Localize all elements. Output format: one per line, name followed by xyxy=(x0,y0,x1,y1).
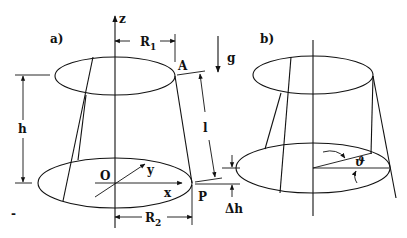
origin-label: O xyxy=(100,169,110,183)
gravity-label: g xyxy=(227,51,236,65)
l-label: l xyxy=(203,121,208,135)
b-string-2 xyxy=(265,93,281,149)
x-axis-label: x xyxy=(164,186,172,200)
b-string-1 xyxy=(280,57,291,193)
l-arrow-up xyxy=(200,74,205,112)
generator-line-2 xyxy=(78,95,86,160)
r2-label: R2 xyxy=(145,211,161,228)
angle-arrow-bottom xyxy=(355,171,357,183)
stray-mark: - xyxy=(11,207,16,221)
dh-label: Δh xyxy=(225,202,243,216)
point-a-label: A xyxy=(177,59,188,73)
generator-line-1 xyxy=(63,57,93,201)
z-axis-label: z xyxy=(119,12,126,26)
b-string-3 xyxy=(373,76,396,198)
angle-arrow-top xyxy=(323,151,345,158)
panel-b-label: b) xyxy=(260,32,274,46)
l-bottom-extension xyxy=(195,178,222,182)
panel-a-label: a) xyxy=(50,32,63,46)
angle-label: ϑ xyxy=(355,155,365,169)
r1-label: R1 xyxy=(140,35,156,52)
y-axis-label: y xyxy=(146,163,155,177)
b-string-4 xyxy=(371,76,373,154)
panel-a: a) z R1 A h g l xyxy=(11,12,243,228)
panel-b: b) ϑ xyxy=(236,32,396,216)
h-label: h xyxy=(18,122,27,136)
cone-right-edge xyxy=(175,76,192,183)
truncated-cone-diagram: a) z R1 A h g l xyxy=(0,0,407,238)
l-arrow-down xyxy=(209,140,215,177)
point-p-label: P xyxy=(198,190,207,204)
